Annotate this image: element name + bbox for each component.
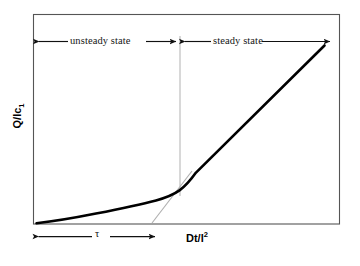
permeation-time-lag-figure: unsteady state steady state τ Dt/l2 Q/lc…: [0, 0, 360, 266]
y-axis-title-subscript: 1: [17, 104, 26, 108]
y-axis-title-container: Q/lc1: [0, 86, 34, 156]
x-axis-title-exponent: 2: [204, 230, 208, 239]
y-axis-title: Q/lc1: [11, 85, 23, 147]
steady-state-label: steady state: [213, 36, 263, 47]
unsteady-state-label: unsteady state: [70, 36, 131, 47]
y-axis-title-base: Q/lc: [11, 108, 23, 129]
x-axis-title-base: Dt/l: [186, 232, 204, 244]
chart-canvas: [0, 0, 360, 266]
time-lag-tau-label: τ: [95, 229, 99, 240]
x-axis-title: Dt/l2: [186, 233, 208, 244]
